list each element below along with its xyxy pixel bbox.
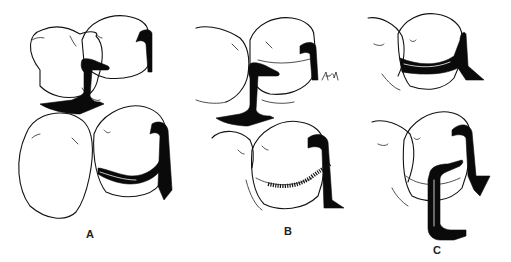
- matrix-band-c-top: [400, 32, 484, 80]
- dental-figure: [0, 0, 511, 262]
- matrix-band-a-bottom: [150, 122, 172, 200]
- tooth-c-bottom-left: [372, 121, 414, 182]
- tooth-b-bottom-right: [252, 121, 325, 208]
- panel-label-a: A: [86, 228, 94, 240]
- t-retainer-a: [40, 59, 109, 114]
- matrix-band-c-bottom: [452, 125, 490, 196]
- tooth-b-top-left: [196, 27, 249, 102]
- matrix-band-b-top: [300, 42, 318, 80]
- panel-label-b: B: [284, 225, 292, 237]
- panel-label-c: C: [433, 244, 441, 256]
- matrix-band-a-top: [136, 30, 152, 72]
- matrix-band-b-bottom: [308, 135, 344, 208]
- tooth-a-bottom-left: [19, 113, 93, 218]
- panel-c: [368, 14, 490, 240]
- tooth-b-bottom-left: [212, 131, 253, 168]
- tooth-c-top-right: [398, 14, 463, 90]
- tooth-b-top-right: [250, 18, 315, 95]
- panel-b: [196, 18, 344, 210]
- wedge-a-bottom: [98, 160, 162, 184]
- panel-a: [19, 16, 172, 219]
- signature-glyph: [322, 72, 338, 80]
